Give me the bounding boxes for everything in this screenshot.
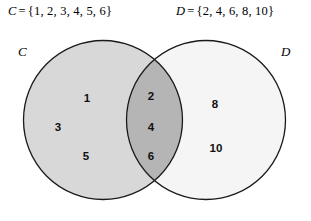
set-members-c: {1, 2, 3, 4, 5, 6} — [28, 4, 112, 18]
venn-area: C D 1 3 5 2 4 6 8 10 — [0, 26, 311, 221]
element-intersection-3: 6 — [148, 150, 154, 162]
element-c-only-2: 3 — [55, 121, 61, 133]
equals-sign-c: = — [17, 4, 28, 18]
element-c-only-1: 1 — [84, 92, 90, 104]
set-symbol-c: C — [8, 4, 17, 18]
set-definition-c: C={1, 2, 3, 4, 5, 6} — [8, 4, 112, 19]
element-intersection-1: 2 — [148, 90, 154, 102]
venn-diagram-figure: C={1, 2, 3, 4, 5, 6} D={2, 4, 6, 8, 10} — [0, 0, 311, 221]
element-d-only-2: 10 — [210, 142, 223, 154]
element-c-only-3: 5 — [83, 150, 89, 162]
circle-label-c: C — [18, 44, 27, 60]
set-definition-d: D={2, 4, 6, 8, 10} — [176, 4, 274, 19]
venn-shapes — [0, 26, 311, 221]
element-d-only-1: 8 — [212, 98, 218, 110]
circle-label-d: D — [281, 44, 290, 60]
equals-sign-d: = — [185, 4, 196, 18]
element-intersection-2: 4 — [148, 121, 154, 133]
set-definitions: C={1, 2, 3, 4, 5, 6} D={2, 4, 6, 8, 10} — [0, 4, 311, 26]
set-members-d: {2, 4, 6, 8, 10} — [196, 4, 274, 18]
set-symbol-d: D — [176, 4, 185, 18]
